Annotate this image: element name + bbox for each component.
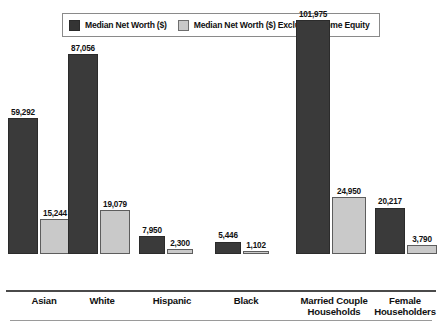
bar: 101,975 xyxy=(296,20,330,254)
bar: 1,102 xyxy=(243,251,269,254)
bar-value-label: 101,975 xyxy=(299,11,327,19)
bar-group: 5,4461,102 xyxy=(215,0,281,254)
bar-value-label: 7,950 xyxy=(142,227,162,235)
bar: 20,217 xyxy=(375,208,405,254)
bar: 59,292 xyxy=(8,118,38,254)
bar-value-label: 3,790 xyxy=(412,236,432,244)
bar-value-label: 5,446 xyxy=(218,232,238,240)
bar-group: 7,9502,300 xyxy=(139,0,205,254)
bar: 24,950 xyxy=(332,197,366,254)
bar-value-label: 24,950 xyxy=(337,188,361,196)
bar-group: 87,05619,079 xyxy=(68,0,146,254)
bar: 15,244 xyxy=(40,219,70,254)
bar-value-label: 19,079 xyxy=(103,201,127,209)
x-axis-label: Black xyxy=(208,296,284,307)
bar: 7,950 xyxy=(139,236,165,254)
bar-value-label: 2,300 xyxy=(170,240,190,248)
bar: 19,079 xyxy=(100,210,130,254)
bar: 2,300 xyxy=(167,249,193,254)
bar: 3,790 xyxy=(407,245,437,254)
bar-value-label: 59,292 xyxy=(11,109,35,117)
bar-group: 20,2173,790 xyxy=(375,0,441,254)
bar-value-label: 15,244 xyxy=(43,210,67,218)
bar-group: 101,97524,950 xyxy=(296,0,380,254)
bar-chart: Median Net Worth ($) Median Net Worth ($… xyxy=(0,0,442,329)
bar-value-label: 1,102 xyxy=(246,242,266,250)
x-axis-label: FemaleHouseholders xyxy=(368,296,442,317)
x-axis-label: White xyxy=(62,296,142,307)
x-axis-label: Hispanic xyxy=(132,296,212,307)
bar: 5,446 xyxy=(215,242,241,254)
bar: 87,056 xyxy=(68,54,98,254)
bottom-divider xyxy=(10,320,432,321)
x-axis-baseline xyxy=(6,290,436,292)
bar-value-label: 20,217 xyxy=(378,198,402,206)
plot-area: 59,29215,24487,05619,0797,9502,3005,4461… xyxy=(0,0,442,292)
bar-value-label: 87,056 xyxy=(71,45,95,53)
